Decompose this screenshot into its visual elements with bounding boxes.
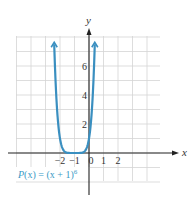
y-axis-arrow-icon [87, 28, 92, 35]
function-label-exponent: 6 [74, 168, 78, 176]
x-tick-label: 1 [101, 155, 106, 166]
y-axis-label: y [85, 14, 91, 26]
function-label-main: (x) = (x + 1) [24, 169, 74, 181]
y-tick-label: 4 [82, 90, 87, 101]
function-label: P(x) = (x + 1)6 [17, 168, 78, 181]
x-tick-label: −1 [69, 155, 80, 166]
y-tick-label: 6 [82, 61, 87, 72]
x-tick-label: 2 [116, 155, 121, 166]
x-axis-arrow-icon [172, 151, 179, 156]
x-tick-label: 0 [89, 155, 94, 166]
y-tick-label: 2 [82, 119, 87, 130]
x-tick-label: −2 [55, 155, 66, 166]
polynomial-graph: x y −2−1012246 P(x) = (x + 1)6 [0, 0, 191, 203]
x-axis-label: x [181, 146, 187, 158]
